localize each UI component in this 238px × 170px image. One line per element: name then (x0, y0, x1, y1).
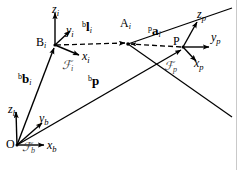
point-label-bi: Bi (36, 36, 46, 50)
axis-label-zp: zp (197, 8, 206, 22)
axis-label-yb: yb (39, 112, 49, 126)
platform-edge-lower (128, 44, 232, 117)
axis-label-zi: zi (52, 3, 59, 17)
vector-b-li (56, 43, 125, 45)
vector-label-b-li: bli (82, 20, 92, 35)
axis-label-yp: yp (211, 31, 221, 45)
point-dot-o (16, 144, 19, 147)
point-dot-bi (53, 43, 56, 46)
axis-label-xi: xi (82, 50, 90, 64)
frame-label-fb: ℱb (22, 141, 35, 155)
axis-label-zb: zb (8, 103, 17, 117)
vector-label-b-bi: bbi (18, 72, 31, 87)
axis-xi (55, 45, 79, 55)
point-dot-p (182, 46, 185, 49)
axis-label-xb: xb (47, 139, 57, 153)
axis-label-yi: yi (66, 24, 74, 38)
point-label-ai: Ai (120, 17, 131, 31)
diagram-canvas (0, 0, 238, 170)
frame-label-fi: ℱi (62, 59, 73, 73)
axis-zp (183, 22, 197, 47)
vector-b-p (17, 50, 181, 145)
point-dot-ai (126, 42, 130, 46)
vector-b-bi (17, 48, 54, 145)
frame-label-fp: ℱp (164, 60, 177, 74)
vector-kinematics-diagram: O Bi Ai P ℱb ℱi ℱp xb yb zb xi yi zi xp … (0, 0, 238, 170)
vector-label-p-ai: pai (148, 24, 161, 39)
axis-label-xp: xp (194, 57, 204, 71)
point-label-o: O (6, 138, 15, 150)
vector-label-b-p: bp (88, 74, 99, 87)
point-label-p: P (173, 35, 180, 47)
